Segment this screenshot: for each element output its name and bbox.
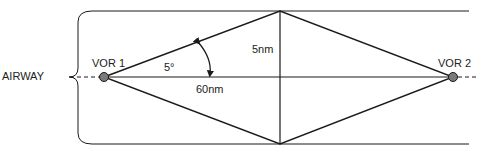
distance-label: 60nm bbox=[196, 84, 224, 95]
airway-diagram bbox=[0, 0, 491, 152]
vor2-label: VOR 2 bbox=[438, 58, 471, 69]
vor1-label: VOR 1 bbox=[92, 58, 125, 69]
airway-label: AIRWAY bbox=[2, 71, 44, 82]
vor1-station-icon bbox=[100, 73, 109, 82]
half-width-label: 5nm bbox=[252, 44, 273, 55]
angle-label: 5° bbox=[164, 62, 175, 73]
vor2-station-icon bbox=[449, 73, 458, 82]
angle-arc-icon bbox=[198, 42, 210, 74]
